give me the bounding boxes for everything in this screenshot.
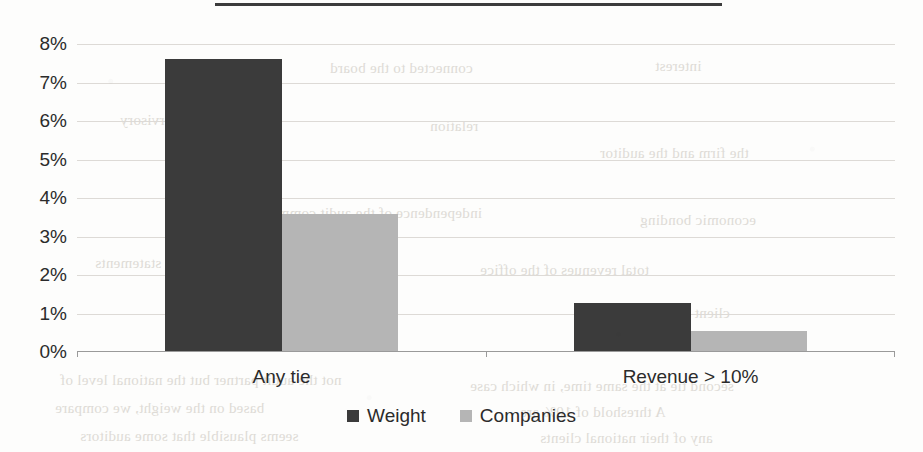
- y-axis-tick-label: 6%: [40, 110, 67, 132]
- legend-item-weight[interactable]: Weight: [347, 405, 426, 427]
- y-axis-tick-label: 8%: [40, 33, 67, 55]
- plot-area: 0%1%2%3%4%5%6%7%8%: [77, 44, 895, 352]
- legend-swatch-companies: [460, 410, 472, 422]
- bar-weight-0: [165, 59, 282, 351]
- grouped-bar-chart: 0%1%2%3%4%5%6%7%8% Any tieRevenue > 10%: [0, 0, 923, 452]
- y-axis-tick-label: 1%: [40, 303, 67, 325]
- x-axis-tick: [894, 351, 895, 357]
- x-axis-category-label: Any tie: [252, 366, 310, 388]
- chart-legend: WeightCompanies: [0, 405, 923, 427]
- legend-label: Weight: [367, 405, 426, 427]
- x-axis-tick: [486, 351, 487, 357]
- x-axis-category-label: Revenue > 10%: [623, 366, 759, 388]
- bar-weight-1: [574, 303, 691, 351]
- chart-page: connected to the boardinterestsupervisor…: [0, 0, 923, 452]
- gridline: [77, 44, 895, 45]
- bar-companies-1: [691, 331, 808, 351]
- legend-swatch-weight: [347, 410, 359, 422]
- y-axis-tick-label: 0%: [40, 341, 67, 363]
- y-axis-tick-label: 2%: [40, 264, 67, 286]
- legend-item-companies[interactable]: Companies: [460, 405, 576, 427]
- y-axis-tick-label: 3%: [40, 226, 67, 248]
- bar-companies-0: [282, 214, 399, 351]
- legend-label: Companies: [480, 405, 576, 427]
- x-axis-tick: [77, 351, 78, 357]
- y-axis-tick-label: 7%: [40, 72, 67, 94]
- y-axis-tick-label: 4%: [40, 187, 67, 209]
- y-axis-tick-label: 5%: [40, 149, 67, 171]
